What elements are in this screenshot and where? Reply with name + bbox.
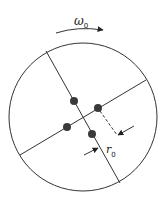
axis-line-2 (20, 80, 146, 155)
dashed-extension (100, 111, 117, 135)
rotating-disc-diagram: ω0 r0 (0, 0, 166, 199)
radius-label: r0 (106, 143, 116, 159)
dimension-arrow-left (84, 148, 98, 155)
omega-label: ω0 (74, 14, 88, 30)
dimension-arrow-right (118, 126, 134, 135)
mass-dot (70, 97, 78, 105)
mass-dot (88, 130, 96, 138)
rotation-arrow (56, 29, 103, 33)
mass-dot (94, 104, 102, 112)
mass-dot (63, 123, 71, 131)
